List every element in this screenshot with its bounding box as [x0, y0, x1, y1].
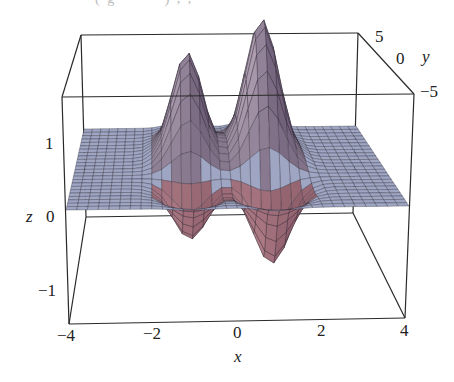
surface-facet: [87, 156, 97, 160]
surface-facet: [83, 176, 94, 180]
surface-facet: [69, 193, 80, 197]
surface-facet: [226, 206, 237, 209]
surface-facet: [81, 139, 91, 143]
surface-facet: [318, 173, 329, 177]
surface-facet: [110, 193, 121, 197]
surface-facet: [126, 128, 135, 132]
surface-facet: [94, 166, 104, 170]
surface-facet: [82, 136, 91, 139]
surface-facet: [354, 203, 366, 206]
surface-facet: [77, 156, 87, 160]
surface-facet: [99, 199, 110, 203]
x-tick: 4: [400, 321, 409, 340]
surface-facet: [110, 196, 121, 200]
surface-facet: [122, 179, 132, 182]
surface-facet: [109, 132, 118, 136]
surface-facet: [352, 200, 364, 204]
x-axis-label: x: [233, 347, 242, 366]
surface-facet: [132, 179, 142, 183]
surface-facet: [317, 169, 328, 173]
surface-facet: [338, 193, 350, 197]
surface-facet: [132, 171, 142, 175]
surface-facet: [327, 170, 338, 174]
surface-facet: [181, 121, 191, 155]
surface-facet: [355, 186, 367, 189]
surface-facet: [328, 173, 340, 177]
surface-facet: [359, 193, 371, 197]
surface-facet: [330, 177, 342, 181]
surface-facet: [105, 159, 115, 162]
surface-facet: [83, 173, 93, 176]
surface-facet: [66, 207, 77, 211]
surface-facet: [109, 129, 118, 133]
surface-facet: [71, 183, 82, 187]
surface-facet: [104, 162, 114, 166]
surface-facet: [335, 166, 346, 170]
surface-facet: [104, 166, 114, 170]
surface-facet: [99, 136, 108, 139]
surface-facet: [115, 152, 125, 156]
surface-facet: [336, 170, 348, 173]
surface-facet: [220, 161, 230, 171]
surface-facet: [131, 203, 142, 206]
surface-facet: [123, 169, 133, 173]
surface-facet: [112, 182, 122, 186]
surface-facet: [72, 180, 83, 184]
surface-facet: [97, 152, 107, 156]
surface-facet: [120, 206, 131, 210]
surface-facet: [130, 206, 141, 210]
surface-facet: [329, 197, 341, 201]
surface-facet: [89, 142, 99, 146]
surface-facet: [79, 193, 90, 197]
surface-facet: [100, 196, 111, 200]
surface-facet: [120, 199, 131, 202]
surface-facet: [68, 200, 79, 204]
surface-facet: [131, 196, 142, 199]
surface-facet: [78, 200, 89, 204]
surface-facet: [117, 135, 126, 138]
surface-facet: [100, 132, 109, 136]
surface-facet: [91, 183, 102, 186]
surface-facet: [322, 204, 334, 208]
surface-facet: [373, 200, 386, 203]
surface-facet: [181, 152, 191, 184]
surface-facet: [336, 190, 348, 194]
surface-facet: [85, 166, 95, 170]
surface-facet: [123, 165, 133, 169]
surface-facet: [87, 152, 97, 156]
surface-facet: [89, 146, 99, 149]
surface-facet: [347, 190, 359, 194]
surface-facet: [92, 179, 102, 183]
surface-facet: [112, 176, 122, 180]
surface-facet: [97, 149, 107, 153]
surface-facet: [191, 152, 201, 184]
surface-facet: [323, 163, 334, 167]
surface-facet: [101, 189, 112, 193]
surface-facet: [92, 129, 101, 133]
surface-facet: [117, 132, 126, 136]
z-tick: −1: [38, 281, 56, 300]
surface-facet: [364, 203, 377, 207]
surface-facet: [74, 173, 85, 176]
surface-facet: [103, 169, 113, 172]
surface-facet: [121, 196, 132, 199]
surface-facet: [118, 129, 127, 133]
surface-facet: [353, 183, 365, 187]
surface-facet: [108, 139, 117, 143]
surface-facet: [68, 196, 79, 200]
surface-facet: [340, 197, 352, 201]
surface-facet: [350, 176, 362, 180]
surface-facet: [77, 203, 88, 207]
surface-facet: [108, 135, 117, 138]
surface-facet: [115, 156, 125, 160]
surface-facet: [86, 159, 96, 162]
surface-facet: [107, 142, 116, 146]
surface-facet: [91, 186, 102, 190]
surface-facet: [152, 206, 163, 209]
surface-facet: [89, 200, 100, 204]
surface-facet: [78, 153, 88, 157]
surface-facet: [123, 172, 133, 176]
surface-facet: [260, 148, 271, 191]
surface-facet: [80, 142, 90, 146]
surface-facet: [89, 196, 100, 200]
